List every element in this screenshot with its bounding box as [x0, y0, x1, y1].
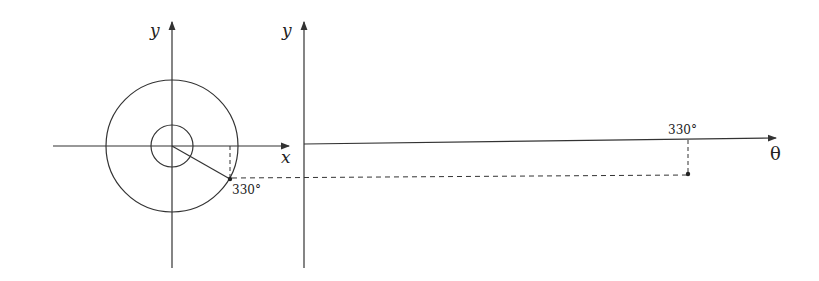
unit-circle-panel: y x 330°	[53, 20, 291, 268]
sine-projection-diagram: y x 330° y θ 330°	[0, 0, 819, 281]
theta-axis-label: θ	[770, 143, 781, 164]
theta-axis	[304, 138, 776, 144]
graph-point	[686, 172, 690, 176]
radius-vector	[172, 146, 230, 179]
point-on-circle	[228, 177, 232, 181]
y-axis-label-left: y	[149, 20, 160, 40]
x-axis-label: x	[281, 147, 291, 167]
graph-panel: y θ 330°	[281, 20, 781, 268]
horizontal-projection-dash	[232, 175, 688, 178]
angle-tick-label-right: 330°	[668, 123, 697, 137]
y-axis-label-right: y	[281, 20, 292, 40]
angle-label-left: 330°	[232, 183, 261, 197]
